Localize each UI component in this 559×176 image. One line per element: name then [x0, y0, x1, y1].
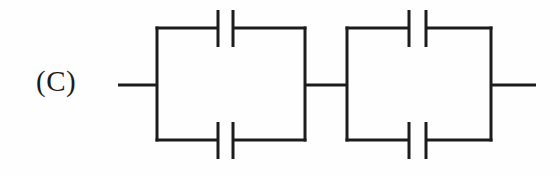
circuit-figure: (C) [0, 0, 559, 176]
circuit-schematic [0, 0, 559, 176]
circuit-wires [118, 27, 536, 142]
capacitor-c3 [409, 10, 426, 47]
capacitor-c4 [409, 122, 426, 159]
capacitor-c2 [218, 122, 233, 159]
capacitor-c1 [218, 10, 233, 47]
